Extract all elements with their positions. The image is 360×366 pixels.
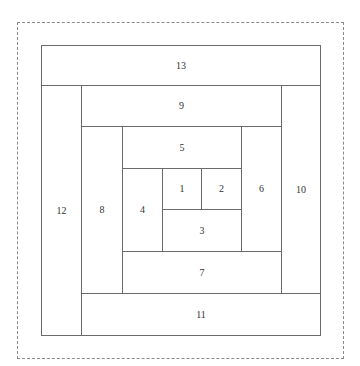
block-label: 9: [179, 101, 184, 111]
block-8: 8: [81, 126, 123, 294]
block-label: 13: [176, 61, 186, 71]
block-4: 4: [122, 168, 163, 252]
block-5: 5: [122, 126, 242, 169]
block-label: 7: [200, 268, 205, 278]
block-label: 11: [196, 310, 206, 320]
block-6: 6: [241, 126, 282, 252]
block-label: 1: [180, 184, 185, 194]
block-label: 12: [57, 206, 67, 216]
block-9: 9: [81, 85, 282, 127]
block-label: 6: [259, 184, 264, 194]
block-label: 8: [100, 205, 105, 215]
block-label: 5: [180, 143, 185, 153]
block-13: 13: [41, 45, 321, 86]
block-2: 2: [201, 168, 242, 210]
block-1: 1: [162, 168, 202, 210]
block-11: 11: [81, 293, 321, 336]
block-3: 3: [162, 209, 242, 252]
block-10: 10: [281, 85, 321, 294]
block-label: 10: [296, 185, 306, 195]
block-label: 3: [200, 226, 205, 236]
block-label: 4: [140, 205, 145, 215]
block-12: 12: [41, 85, 82, 336]
block-label: 2: [219, 184, 224, 194]
block-7: 7: [122, 251, 282, 294]
